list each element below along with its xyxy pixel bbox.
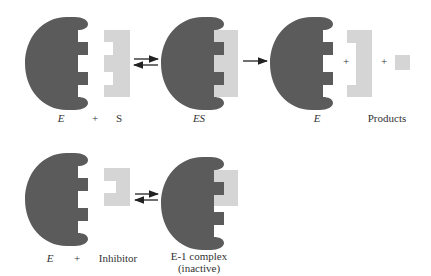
enzyme-body (25, 153, 88, 246)
substrate-s-free (104, 30, 130, 97)
product-1-shape (347, 30, 372, 97)
equilibrium-arrows-1 (134, 59, 158, 65)
bound-substrate-body (213, 30, 238, 97)
product-plus-1: + (343, 55, 349, 67)
inhibitor-shape (104, 168, 130, 206)
equilibrium-arrows-2 (135, 194, 158, 200)
enzyme-e-free (25, 17, 88, 110)
label-enzyme-released: E (314, 112, 321, 124)
enzyme-e-released (270, 17, 333, 110)
label-enzyme: E (58, 112, 65, 124)
label-ei-inactive: (inactive) (178, 262, 220, 274)
label-plus-2: + (74, 252, 80, 264)
ei-complex (161, 157, 238, 250)
es-substrate (213, 30, 238, 97)
label-enzyme-2: E (47, 252, 54, 264)
label-plus: + (92, 112, 98, 124)
label-inhibitor: Inhibitor (99, 252, 138, 264)
substrate-body (104, 30, 130, 97)
label-substrate: S (116, 112, 122, 124)
product-2-square (395, 55, 410, 70)
enzyme-body (25, 17, 88, 110)
enzyme-inhibition-diagram (0, 0, 431, 276)
label-es-complex: ES (193, 112, 205, 124)
enzyme-e-free-2 (25, 153, 88, 246)
product-plus-2: + (381, 55, 387, 67)
product-bracket (347, 30, 372, 97)
enzyme-body (270, 17, 333, 110)
label-ei-complex: E-1 complex (171, 250, 228, 262)
es-complex (161, 17, 238, 110)
label-products: Products (368, 112, 407, 124)
